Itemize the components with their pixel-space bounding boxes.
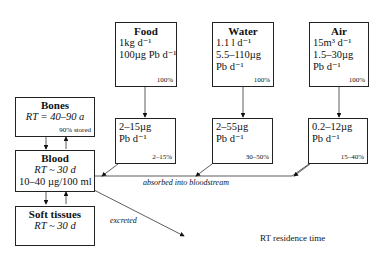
absorbed-label: absorbed into bloodstream [143,178,229,187]
food-source-box: Food 1kg d⁻¹ 100µg Pb d⁻¹ 100% [115,22,177,87]
air-pct: 100% [349,76,365,84]
food-absorbed-amount: 2–15µg [119,121,172,133]
water-title: Water [216,25,270,37]
water-unit: Pb d⁻¹ [216,61,270,73]
food-absorbed-box: 2–15µg Pb d⁻¹ 2–15% [115,118,176,164]
blood-title: Blood [19,152,91,164]
air-source-box: Air 15m³ d⁻¹ 1.5–30µg Pb d⁻¹ 100% [309,22,369,87]
legend-label: RT residence time [260,233,325,243]
soft-tissues-rt: RT ~ 30 d [19,220,91,232]
water-intake: 1.1 l d⁻¹ [216,37,270,49]
bones-title: Bones [19,99,91,111]
food-absorbed-unit: Pb d⁻¹ [119,133,172,145]
blood-rt: RT ~ 30 d [19,164,91,176]
excreted-label: excreted [110,216,137,225]
air-absorbed-amount: 0.2–12µg [312,121,364,133]
air-unit: Pb d⁻¹ [313,61,365,73]
air-title: Air [313,25,365,37]
air-intake: 15m³ d⁻¹ [313,37,365,49]
food-pct: 100% [157,76,173,84]
water-absorbed-box: 2–55µg Pb d⁻¹ 30–50% [212,118,273,164]
blood-box: Blood RT ~ 30 d 10–40 µg/100 ml [15,150,95,192]
air-absorbed-box: 0.2–12µg Pb d⁻¹ 15–40% [308,118,368,164]
water-source-box: Water 1.1 l d⁻¹ 5.5–110µg Pb d⁻¹ 100% [212,22,274,87]
air-lead: 1.5–30µg [313,49,365,61]
food-lead: 100µg Pb d⁻¹ [119,49,173,61]
bones-note: 90% stored [59,126,91,134]
blood-concentration: 10–40 µg/100 ml [19,176,91,188]
air-absorbed-pct: 15–40% [341,153,364,161]
food-title: Food [119,25,173,37]
food-absorbed-pct: 2–15% [152,153,172,161]
bones-rt: RT = 40–90 a [19,111,91,123]
bones-box: Bones RT = 40–90 a 90% stored [15,97,95,137]
water-pct: 100% [254,76,270,84]
soft-tissues-title: Soft tissues [19,208,91,220]
water-absorbed-pct: 30–50% [246,153,269,161]
lead-pathway-diagram: Food 1kg d⁻¹ 100µg Pb d⁻¹ 100% Water 1.1… [0,0,381,259]
air-absorbed-unit: Pb d⁻¹ [312,133,364,145]
food-intake: 1kg d⁻¹ [119,37,173,49]
water-absorbed-amount: 2–55µg [216,121,269,133]
soft-tissues-box: Soft tissues RT ~ 30 d [15,206,95,246]
water-absorbed-unit: Pb d⁻¹ [216,133,269,145]
water-lead: 5.5–110µg [216,49,270,61]
